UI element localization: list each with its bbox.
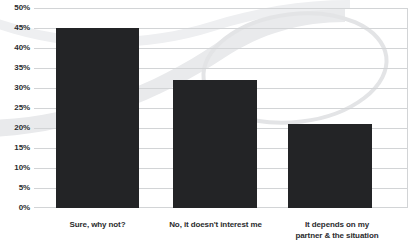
x-label-it-depends: It depends on my partner & the situation xyxy=(266,219,408,241)
y-tick-label: 25% xyxy=(0,103,30,112)
y-tick-label: 50% xyxy=(0,3,30,12)
x-label-sure-why-not: Sure, why not? xyxy=(34,219,161,230)
y-tick-label: 5% xyxy=(0,183,30,192)
gridline xyxy=(34,8,408,9)
y-tick-label: 15% xyxy=(0,143,30,152)
x-label-line: Sure, why not? xyxy=(70,220,126,229)
y-tick-label: 35% xyxy=(0,63,30,72)
y-tick-label: 40% xyxy=(0,43,30,52)
y-tick-label: 30% xyxy=(0,83,30,92)
y-tick-label: 0% xyxy=(0,203,30,212)
y-tick-label: 45% xyxy=(0,23,30,32)
x-label-line: partner & the situation xyxy=(295,231,378,240)
x-label-line: It depends on my xyxy=(305,220,369,229)
y-tick-label: 20% xyxy=(0,123,30,132)
bar-no-not-interested xyxy=(173,80,257,208)
x-label-line: No, it doesn't interest me xyxy=(169,220,262,229)
x-label-no-not-interested: No, it doesn't interest me xyxy=(151,219,280,230)
plot-area xyxy=(34,8,408,208)
plot-right-edge xyxy=(407,8,408,208)
y-tick-label: 10% xyxy=(0,163,30,172)
bar-chart: 50% 45% 40% 35% 30% 25% 20% 15% 10% 5% 0… xyxy=(0,0,411,249)
bar-sure-why-not xyxy=(56,28,139,208)
bar-it-depends xyxy=(288,124,372,208)
x-axis-labels: Sure, why not? No, it doesn't interest m… xyxy=(34,211,408,247)
